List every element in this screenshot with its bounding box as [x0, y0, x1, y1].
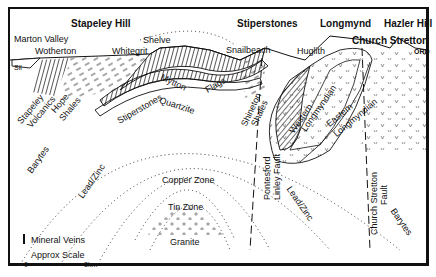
formation-ord: ORD	[414, 48, 430, 55]
locality-snailbeach: Snailbeach	[226, 46, 271, 55]
legend-mineral-veins: Mineral Veins	[31, 236, 85, 245]
fault-linley-label: Linley Fault	[273, 154, 282, 200]
legend-scale-start: 0	[24, 261, 28, 268]
formation-sil: Sil	[14, 64, 22, 71]
fault-church-stretton-fault-label: Fault	[380, 185, 389, 205]
zone-copper: Copper Zone	[162, 176, 215, 185]
zone-granite: Granite	[170, 238, 200, 247]
place-stiperstones: Stiperstones	[237, 19, 298, 29]
place-church-stretton: Church Stretton	[352, 36, 428, 46]
legend-approx-scale: Approx Scale	[31, 251, 85, 260]
locality-shelve: Shelve	[143, 36, 171, 45]
locality-whitegrit: Whitegrit	[112, 47, 148, 56]
place-hazler-hill: Hazler Hill	[384, 19, 432, 29]
zone-tin: Tin Zone	[168, 203, 203, 212]
fault-church-stretton-label: Church Stretton	[370, 172, 379, 235]
legend-scale-end: 3km	[84, 261, 97, 268]
locality-wotherton: Wotherton	[35, 47, 76, 56]
place-stapeley-hill: Stapeley Hill	[71, 19, 130, 29]
fault-pontesford-label: Pontesford	[263, 156, 272, 200]
locality-huglith: Huglith	[297, 47, 325, 56]
place-longmynd: Longmynd	[320, 19, 371, 29]
locality-marton-valley: Marton Valley	[14, 35, 68, 44]
